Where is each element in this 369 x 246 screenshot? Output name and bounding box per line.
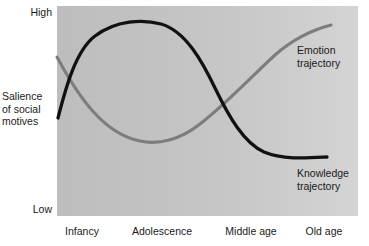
chart-canvas <box>0 0 369 246</box>
x-axis-tick-infancy: Infancy <box>52 225 112 237</box>
knowledge-trajectory-label: Knowledge trajectory <box>297 167 349 192</box>
y-axis-high-label: High <box>26 6 52 19</box>
y-axis-title-line-3: motives <box>2 115 54 128</box>
emotion-trajectory-label-line-1: Emotion <box>297 44 340 57</box>
x-axis-tick-adolescence: Adolescence <box>122 225 202 237</box>
y-axis-title-line-2: of social <box>2 103 54 116</box>
y-axis-title-line-1: Salience <box>2 90 54 103</box>
y-axis-low-label: Low <box>22 203 52 216</box>
x-axis-tick-old-age: Old age <box>294 225 354 237</box>
salience-of-social-motives-chart: High Low Salience of social motives Infa… <box>0 0 369 246</box>
emotion-trajectory-label: Emotion trajectory <box>297 44 340 69</box>
knowledge-trajectory-label-line-2: trajectory <box>297 180 349 193</box>
y-axis-title: Salience of social motives <box>2 90 54 128</box>
x-axis-tick-middle-age: Middle age <box>215 225 287 237</box>
knowledge-trajectory-label-line-1: Knowledge <box>297 167 349 180</box>
emotion-trajectory-label-line-2: trajectory <box>297 57 340 70</box>
